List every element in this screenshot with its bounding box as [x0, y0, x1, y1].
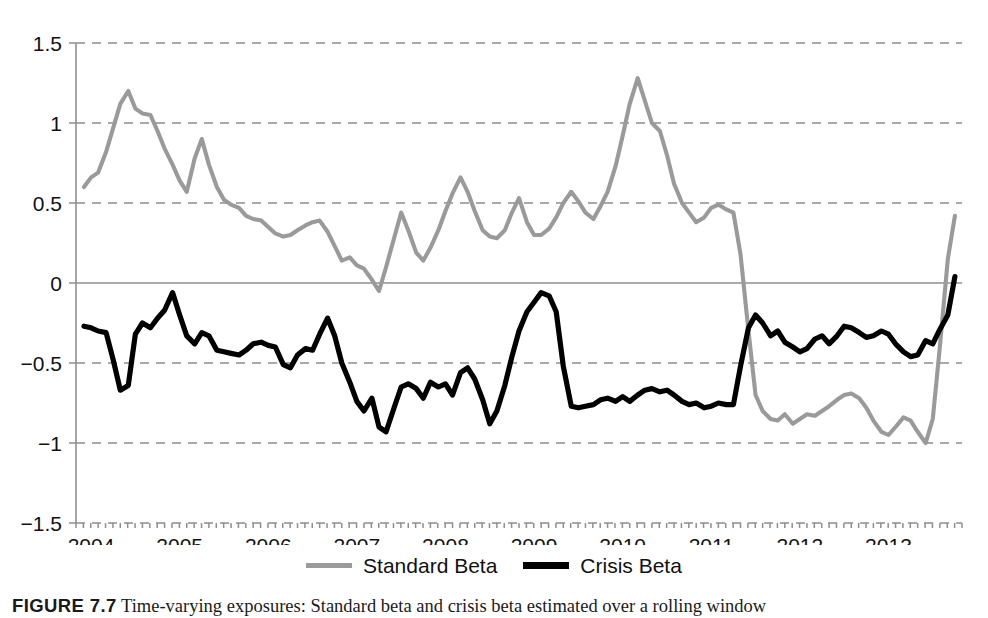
x-tick-label-2012: 2012: [777, 534, 824, 545]
legend-label-standard-beta: Standard Beta: [363, 555, 497, 576]
x-tick-label-2004: 2004: [68, 534, 115, 545]
line-chart: 1.510.50−0.5−1−1.5 200420052006200720082…: [0, 0, 988, 545]
y-tick-label-0.5: 0.5: [33, 192, 62, 215]
chart-plot-area: 1.510.50−0.5−1−1.5 200420052006200720082…: [0, 0, 988, 545]
legend-label-crisis-beta: Crisis Beta: [580, 555, 682, 576]
series-line-standard-beta: [84, 78, 955, 443]
x-tick-label-2010: 2010: [599, 534, 646, 545]
y-tick-labels-group: 1.510.50−0.5−1−1.5: [21, 32, 62, 535]
x-tick-label-2013: 2013: [865, 534, 912, 545]
x-tick-label-2008: 2008: [422, 534, 469, 545]
x-tick-label-2007: 2007: [334, 534, 381, 545]
legend-line-swatch-standard-beta: [306, 563, 352, 568]
y-tick-label--1.5: −1.5: [21, 512, 62, 535]
y-tick-label--1: −1: [38, 432, 62, 455]
legend-entry-crisis-beta: Crisis Beta: [523, 555, 682, 576]
y-tick-label-1.5: 1.5: [33, 32, 62, 55]
figure-caption-text: Time-varying exposures: Standard beta an…: [121, 596, 766, 616]
y-tick-label-0: 0: [50, 272, 62, 295]
axis-spine-group: [69, 43, 76, 523]
x-tick-label-2006: 2006: [245, 534, 292, 545]
y-tick-label-1: 1: [50, 112, 62, 135]
x-axis-ticks-group: [76, 523, 962, 528]
x-tick-labels-group: 2004200520062007200820092010201120122013: [68, 534, 912, 545]
x-tick-label-2009: 2009: [511, 534, 558, 545]
figure-caption-number: FIGURE 7.7: [12, 595, 117, 616]
x-tick-label-2011: 2011: [689, 534, 734, 545]
legend-line-swatch-crisis-beta: [523, 562, 569, 569]
legend-entry-standard-beta: Standard Beta: [306, 555, 497, 576]
x-tick-label-2005: 2005: [156, 534, 203, 545]
figure-caption: FIGURE 7.7 Time-varying exposures: Stand…: [12, 594, 980, 618]
chart-legend: Standard Beta Crisis Beta: [0, 548, 988, 582]
figure-container: 1.510.50−0.5−1−1.5 200420052006200720082…: [0, 0, 988, 618]
series-group: [84, 78, 955, 443]
y-tick-label--0.5: −0.5: [21, 352, 62, 375]
